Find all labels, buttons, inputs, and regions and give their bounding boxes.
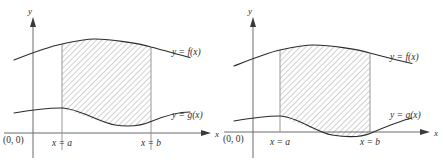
bound-label-a-left: x = a xyxy=(51,138,72,148)
area-between-curves-figure: y x (0, 0) y = f(x) y = g(x) x = a x = b xyxy=(0,0,444,160)
origin-label-right: (0, 0) xyxy=(223,134,244,145)
curve-label-g-right: y = g(x) xyxy=(389,110,421,121)
bound-label-b-right: x = b xyxy=(359,137,380,147)
origin-label-left: (0, 0) xyxy=(3,135,24,146)
y-axis-label-left: y xyxy=(27,6,32,16)
bound-label-a-right: x = a xyxy=(269,137,290,147)
left-panel: y x (0, 0) y = f(x) y = g(x) x = a x = b xyxy=(0,0,222,160)
y-axis-label-right: y xyxy=(247,6,252,16)
shaded-region-left xyxy=(62,39,151,126)
right-panel: y x (0, 0) y = f(x) y = g(x) x = a x = b xyxy=(222,0,444,160)
shaded-region-right xyxy=(280,45,370,137)
x-axis-label-right: x xyxy=(433,128,438,138)
curve-label-f-left: y = f(x) xyxy=(171,47,201,58)
curve-label-f-right: y = f(x) xyxy=(389,52,419,63)
curve-label-g-left: y = g(x) xyxy=(171,110,203,121)
x-axis-label-left: x xyxy=(214,129,219,139)
bound-label-b-left: x = b xyxy=(140,138,161,148)
y-axis-left xyxy=(30,17,36,158)
x-axis-left xyxy=(4,130,211,136)
y-axis-right xyxy=(250,17,256,158)
